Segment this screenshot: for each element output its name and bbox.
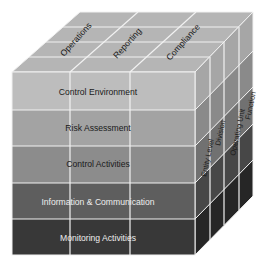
label-control-activities: Control Activities	[66, 159, 130, 169]
label-control-environment: Control Environment	[59, 87, 138, 97]
label-information-communication: Information & Communication	[41, 197, 154, 207]
label-risk-assessment: Risk Assessment	[65, 123, 131, 133]
coso-cube-diagram: Operations Reporting Compliance Entity L…	[0, 0, 267, 266]
label-monitoring-activities: Monitoring Activities	[60, 233, 136, 243]
